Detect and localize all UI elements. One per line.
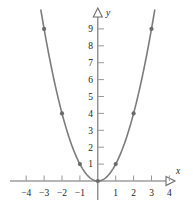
y-tick-label-1: 1: [88, 159, 93, 169]
data-point-marker: [96, 179, 100, 183]
y-tick-label-9: 9: [88, 24, 93, 34]
data-point-marker: [42, 27, 46, 31]
x-tick-label--3: −3: [39, 188, 49, 198]
y-tick-label-6: 6: [88, 75, 93, 85]
x-axis-group: [10, 177, 175, 186]
data-point-marker: [149, 27, 153, 31]
x-tick-label-1: 1: [113, 188, 118, 198]
y-tick-label-3: 3: [88, 126, 93, 136]
y-axis-label: y: [105, 8, 111, 18]
x-axis-label: x: [175, 166, 181, 176]
x-tick-label-3: 3: [149, 188, 154, 198]
data-point-marker: [78, 162, 82, 166]
y-axis-arrow-icon: [93, 8, 102, 17]
x-tick-label--4: −4: [21, 188, 31, 198]
y-tick-label-4: 4: [88, 109, 93, 119]
x-axis-tick-labels: −4 −3 −2 −1 1 2 3 4: [21, 188, 172, 198]
x-tick-label-2: 2: [131, 188, 136, 198]
y-tick-label-7: 7: [88, 58, 93, 68]
x-tick-label-4: 4: [167, 188, 172, 198]
data-point-marker: [60, 111, 64, 115]
y-axis-ticks: [98, 29, 104, 164]
y-axis-group: [93, 8, 102, 200]
y-tick-label-2: 2: [88, 143, 93, 153]
parabola-graph-figure: −4 −3 −2 −1 1 2 3 4 x: [0, 0, 193, 211]
data-point-marker: [132, 111, 136, 115]
x-tick-label--2: −2: [57, 188, 67, 198]
y-axis-tick-labels: 1 2 3 4 5 6 7 8 9: [88, 24, 93, 169]
y-tick-label-8: 8: [88, 41, 93, 51]
coordinate-plane: −4 −3 −2 −1 1 2 3 4 x: [0, 0, 193, 211]
x-tick-label--1: −1: [75, 188, 85, 198]
x-axis-arrow-icon: [166, 177, 175, 186]
data-point-marker: [114, 162, 118, 166]
y-tick-label-5: 5: [88, 92, 93, 102]
